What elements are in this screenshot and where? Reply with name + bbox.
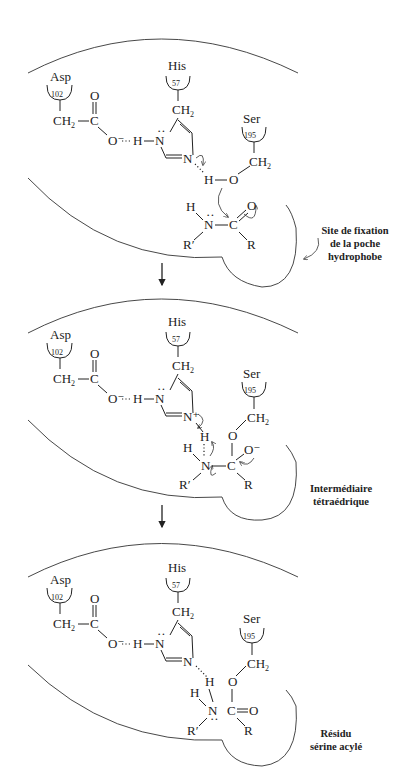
svg-text:C: C bbox=[90, 113, 99, 128]
panel-tetrahedral-intermediate: Asp 102 CH2 C O O⁻ H His 57 CH2 N ·· N⁺ … bbox=[28, 299, 372, 520]
svg-text:··: ·· bbox=[157, 123, 166, 138]
svg-text:195: 195 bbox=[244, 386, 256, 395]
label-site-fixation: Site de fixation bbox=[321, 225, 388, 236]
svg-text:His: His bbox=[168, 314, 186, 329]
svg-text:Ser: Ser bbox=[243, 611, 261, 626]
ser-label: Ser bbox=[243, 111, 261, 126]
svg-text:O: O bbox=[90, 591, 99, 606]
svg-text:CH2: CH2 bbox=[247, 656, 269, 673]
svg-text:O⁻: O⁻ bbox=[108, 636, 124, 651]
svg-text:H: H bbox=[186, 199, 195, 214]
asp-number: 102 bbox=[51, 90, 63, 99]
panel-acyl-serine: Asp 102 CH2 C O O⁻ H His 57 CH2 N ·· N S… bbox=[28, 544, 362, 767]
svg-text:CH2: CH2 bbox=[249, 154, 271, 171]
svg-text:CH2: CH2 bbox=[53, 616, 75, 633]
svg-text:CH2: CH2 bbox=[247, 410, 269, 427]
svg-text:H: H bbox=[183, 440, 192, 455]
svg-text:tétraédrique: tétraédrique bbox=[313, 496, 369, 507]
label-tetrahedral-intermediate: Intermédiaire bbox=[310, 483, 373, 494]
asp-label: Asp bbox=[50, 69, 71, 84]
catalytic-mechanism-diagram: Asp 102 CH2 C O O⁻ H His 57 CH2 N ·· N S… bbox=[0, 0, 408, 783]
svg-text:N: N bbox=[183, 151, 193, 166]
svg-text:CH2: CH2 bbox=[172, 102, 194, 119]
svg-text:C: C bbox=[227, 703, 236, 718]
svg-text:··: ·· bbox=[157, 381, 166, 396]
svg-text:57: 57 bbox=[172, 581, 180, 590]
svg-text:R: R bbox=[244, 477, 253, 492]
svg-text:H: H bbox=[200, 429, 209, 444]
svg-text:hydrophobe: hydrophobe bbox=[328, 251, 382, 262]
svg-text:H: H bbox=[205, 674, 214, 689]
svg-text:O: O bbox=[90, 346, 99, 361]
svg-text:O: O bbox=[247, 198, 256, 213]
svg-text:His: His bbox=[168, 560, 186, 575]
svg-text:102: 102 bbox=[51, 593, 63, 602]
svg-text:102: 102 bbox=[51, 348, 63, 357]
his-label: His bbox=[168, 58, 186, 73]
svg-text:de la poche: de la poche bbox=[330, 238, 381, 249]
label-acyl-serine: Résidu bbox=[321, 728, 352, 739]
svg-text:Ser: Ser bbox=[243, 366, 261, 381]
svg-text:R′: R′ bbox=[187, 723, 199, 738]
svg-text:sérine acylé: sérine acylé bbox=[310, 741, 363, 752]
svg-text:O⁻: O⁻ bbox=[244, 442, 260, 457]
svg-text:R′: R′ bbox=[179, 477, 191, 492]
enzyme-pocket-top bbox=[28, 39, 298, 73]
svg-text:C: C bbox=[90, 371, 99, 386]
svg-text:··: ·· bbox=[206, 207, 215, 222]
svg-text:O: O bbox=[228, 674, 237, 689]
svg-text:57: 57 bbox=[172, 335, 180, 344]
svg-text:195: 195 bbox=[243, 632, 255, 641]
svg-text:C: C bbox=[227, 458, 236, 473]
svg-text:CH2: CH2 bbox=[53, 371, 75, 388]
svg-text:CH2: CH2 bbox=[172, 358, 194, 375]
svg-text:O: O bbox=[249, 703, 258, 718]
asp-ch2: CH2 bbox=[53, 113, 75, 130]
svg-text:H: H bbox=[133, 133, 142, 148]
svg-text:C: C bbox=[229, 217, 238, 232]
svg-text:H: H bbox=[190, 685, 199, 700]
svg-text:C: C bbox=[90, 616, 99, 631]
svg-text:R′: R′ bbox=[183, 237, 195, 252]
svg-text:O⁻: O⁻ bbox=[108, 391, 124, 406]
svg-text:H: H bbox=[133, 636, 142, 651]
svg-text:H: H bbox=[133, 391, 142, 406]
svg-text:Asp: Asp bbox=[50, 572, 71, 587]
svg-text:O: O bbox=[229, 172, 238, 187]
svg-text:O: O bbox=[228, 428, 237, 443]
svg-text:CH2: CH2 bbox=[172, 604, 194, 621]
svg-text:N: N bbox=[183, 654, 193, 669]
ser-number: 195 bbox=[244, 131, 256, 140]
svg-text:H: H bbox=[204, 172, 213, 187]
svg-text:O: O bbox=[90, 88, 99, 103]
panel-enzyme-substrate: Asp 102 CH2 C O O⁻ H His 57 CH2 N ·· N S… bbox=[28, 39, 389, 287]
his-number: 57 bbox=[172, 79, 180, 88]
svg-text:··: ·· bbox=[210, 711, 219, 726]
svg-text:O⁻: O⁻ bbox=[108, 133, 124, 148]
svg-text:Asp: Asp bbox=[50, 327, 71, 342]
svg-text:R: R bbox=[244, 723, 253, 738]
svg-text:N: N bbox=[201, 458, 211, 473]
svg-text:··: ·· bbox=[157, 626, 166, 641]
svg-text:N⁺: N⁺ bbox=[183, 409, 199, 424]
svg-text:R: R bbox=[247, 237, 256, 252]
